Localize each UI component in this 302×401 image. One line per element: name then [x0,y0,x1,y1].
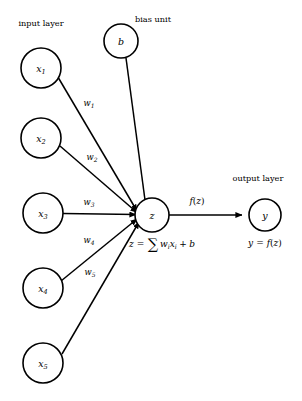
weight-label-w2: w2 [87,152,98,163]
input-layer-label: input layer [18,18,63,28]
node-x1[interactable]: x1 [21,48,61,88]
weight-label-w1: w1 [84,98,95,109]
edge-x2-to-z [60,146,137,213]
node-bias[interactable]: b [104,24,138,58]
node-label-z: z [148,210,155,221]
sum-formula-label: z=∑wixi+b [128,236,195,252]
activation-function-label: f(z) [188,196,204,206]
edge-group-bias [126,58,145,200]
neural-network-diagram: input layer bias unit output layer x1 x2… [0,0,302,401]
weight-label-w3: w3 [84,197,95,208]
node-sum-z[interactable]: z [135,198,169,232]
edge-x1-to-z [59,78,138,211]
diagram-canvas: input layer bias unit output layer x1 x2… [0,0,302,401]
node-x5[interactable]: x5 [23,343,63,383]
node-x4[interactable]: x4 [23,268,63,308]
bias-unit-label: bias unit [135,14,172,24]
edge-b-to-z [126,58,145,200]
node-x2[interactable]: x2 [21,118,61,158]
edge-x3-to-z [63,214,136,215]
node-x3[interactable]: x3 [23,193,63,233]
edge-group-inputs [59,78,140,354]
node-output-y[interactable]: y [249,199,281,231]
output-layer-label: output layer [233,173,284,183]
node-label-y: y [261,210,268,221]
weight-label-w4: w4 [84,235,95,246]
edge-x4-to-z [61,219,137,281]
weight-label-w5: w5 [85,267,96,278]
node-label-bias: b [118,36,124,47]
edge-x5-to-z [62,222,139,354]
output-formula-label: y=f(z) [247,238,282,248]
